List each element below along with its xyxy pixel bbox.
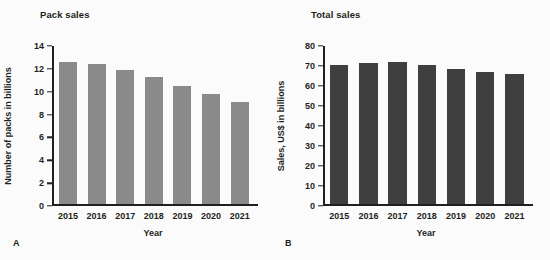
- y-tick-label: 0: [310, 201, 315, 211]
- panel-a: Pack sales 02468101214 20152016201720182…: [0, 0, 275, 260]
- bar-2018: [145, 77, 163, 205]
- bar-slot: [412, 46, 441, 204]
- y-tick-label: 20: [305, 161, 315, 171]
- bar-slot: [139, 46, 168, 204]
- y-tick-mark: [47, 45, 52, 46]
- y-tick-mark: [47, 91, 52, 92]
- x-tick-label-2019: 2019: [168, 211, 197, 221]
- panel-b-letter: B: [285, 238, 292, 248]
- panel-a-letter: A: [13, 238, 20, 248]
- bar-2020: [476, 72, 494, 205]
- bar-slot: [197, 46, 226, 204]
- panel-b-y-axis-title: Sales, US$ in billions: [276, 81, 286, 172]
- bar-slot: [82, 46, 111, 204]
- x-tick-label-2015: 2015: [325, 211, 354, 221]
- bar-slot: [54, 46, 83, 204]
- y-tick-mark: [47, 114, 52, 115]
- y-tick-mark: [318, 105, 323, 106]
- x-tick-label-2020: 2020: [197, 211, 226, 221]
- bar-2019: [173, 86, 191, 205]
- y-tick-mark: [47, 137, 52, 138]
- bar-slot: [225, 46, 254, 204]
- y-tick-label: 8: [39, 110, 44, 120]
- y-tick-label: 0: [39, 201, 44, 211]
- bar-slot: [441, 46, 470, 204]
- panel-a-x-tick-labels: 2015201620172018201920202021: [54, 206, 254, 221]
- x-tick-label-2018: 2018: [412, 211, 441, 221]
- bar-slot: [500, 46, 529, 204]
- x-tick-label-2020: 2020: [471, 211, 500, 221]
- y-tick-label: 14: [34, 41, 44, 51]
- x-tick-label-2017: 2017: [383, 211, 412, 221]
- bar-2021: [231, 102, 249, 204]
- bar-2016: [359, 63, 377, 204]
- y-tick-mark: [47, 182, 52, 183]
- bar-slot: [471, 46, 500, 204]
- x-tick-label-2019: 2019: [441, 211, 470, 221]
- y-tick-mark: [47, 160, 52, 161]
- panel-a-y-axis-title: Number of packs in billions: [3, 67, 13, 185]
- y-tick-mark: [47, 68, 52, 69]
- y-tick-label: 30: [305, 141, 315, 151]
- y-tick-label: 4: [39, 155, 44, 165]
- bar-2017: [388, 62, 406, 205]
- x-tick-label-2021: 2021: [500, 211, 529, 221]
- bar-2017: [116, 70, 134, 205]
- y-tick-label: 12: [34, 64, 44, 74]
- y-tick-mark: [318, 205, 323, 206]
- y-tick-mark: [318, 45, 323, 46]
- y-tick-label: 50: [305, 101, 315, 111]
- figure: Pack sales 02468101214 20152016201720182…: [0, 0, 550, 260]
- panel-a-title: Pack sales: [40, 9, 90, 20]
- y-tick-label: 6: [39, 132, 44, 142]
- y-tick-label: 70: [305, 61, 315, 71]
- y-tick-label: 2: [39, 178, 44, 188]
- bar-2018: [418, 65, 436, 204]
- bar-2015: [330, 65, 348, 204]
- x-tick-label-2018: 2018: [139, 211, 168, 221]
- bar-2019: [447, 69, 465, 205]
- y-tick-mark: [318, 85, 323, 86]
- bar-2021: [505, 74, 523, 205]
- y-tick-mark: [318, 65, 323, 66]
- x-tick-label-2016: 2016: [354, 211, 383, 221]
- y-tick-mark: [318, 125, 323, 126]
- panel-b-title: Total sales: [311, 9, 361, 20]
- bar-2020: [202, 94, 220, 205]
- x-tick-label-2015: 2015: [54, 211, 83, 221]
- bar-2016: [88, 64, 106, 204]
- y-tick-label: 10: [305, 181, 315, 191]
- y-tick-mark: [318, 145, 323, 146]
- y-tick-mark: [47, 205, 52, 206]
- panel-b: Total sales 01020304050607080 2015201620…: [275, 0, 550, 260]
- bar-slot: [325, 46, 354, 204]
- bar-slot: [383, 46, 412, 204]
- x-tick-label-2016: 2016: [82, 211, 111, 221]
- panel-b-x-tick-labels: 2015201620172018201920202021: [325, 206, 529, 221]
- panel-b-bars: [325, 46, 529, 204]
- bar-2015: [59, 62, 77, 205]
- y-tick-label: 40: [305, 121, 315, 131]
- y-tick-label: 80: [305, 41, 315, 51]
- x-tick-label-2021: 2021: [225, 211, 254, 221]
- y-tick-mark: [318, 165, 323, 166]
- bar-slot: [111, 46, 140, 204]
- x-tick-label-2017: 2017: [111, 211, 140, 221]
- y-tick-label: 60: [305, 81, 315, 91]
- panel-a-x-axis-title: Year: [52, 228, 254, 238]
- panel-b-plot-area: 01020304050607080 2015201620172018201920…: [323, 46, 529, 206]
- bar-slot: [168, 46, 197, 204]
- panel-a-bars: [54, 46, 254, 204]
- y-tick-mark: [318, 185, 323, 186]
- panel-a-plot-area: 02468101214 2015201620172018201920202021…: [52, 46, 254, 206]
- bar-slot: [354, 46, 383, 204]
- y-tick-label: 10: [34, 87, 44, 97]
- panel-b-x-axis-title: Year: [323, 228, 529, 238]
